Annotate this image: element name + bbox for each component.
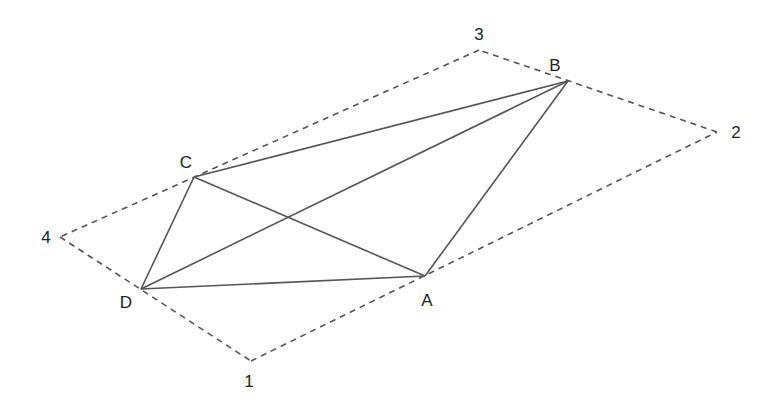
solid-edge-b-d	[141, 81, 568, 289]
solid-edge-c-d	[141, 177, 194, 289]
point-label-3: 3	[474, 26, 483, 43]
dashed-edge-2-3	[479, 50, 717, 132]
solid-edge-a-b	[425, 81, 568, 276]
solid-edge-d-a	[141, 276, 425, 289]
point-label-b: B	[549, 57, 560, 74]
point-label-4: 4	[41, 229, 50, 246]
dashed-edge-1-2	[251, 132, 717, 361]
quadrilateral-abcd-with-diagonals	[141, 81, 568, 289]
diagram-canvas	[0, 0, 773, 402]
geometry-diagram: 1 2 3 4 A B C D	[0, 0, 773, 402]
solid-edge-b-c	[194, 81, 568, 177]
solid-edge-a-c	[194, 177, 425, 276]
point-label-2: 2	[731, 124, 740, 141]
point-label-c: C	[180, 154, 192, 171]
point-label-a: A	[421, 292, 432, 309]
dashed-edge-4-1	[60, 237, 251, 361]
dashed-parallelogram	[60, 50, 717, 361]
point-label-d: D	[120, 294, 132, 311]
point-label-1: 1	[244, 373, 253, 390]
